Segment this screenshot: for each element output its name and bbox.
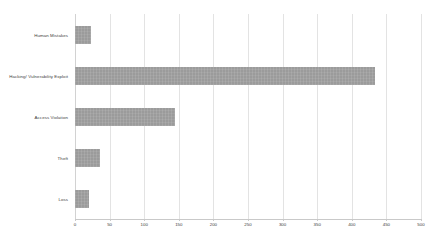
bar-row bbox=[75, 190, 421, 208]
tick-mark-x-0 bbox=[75, 219, 76, 221]
bar-row bbox=[75, 26, 421, 44]
bar bbox=[75, 67, 375, 85]
x-tick-label-150: 150 bbox=[175, 222, 182, 227]
x-tick-label-400: 400 bbox=[348, 222, 355, 227]
tick-mark-x-450 bbox=[386, 219, 387, 221]
x-tick-label-450: 450 bbox=[383, 222, 390, 227]
bar-row bbox=[75, 108, 421, 126]
x-tick-label-0: 0 bbox=[74, 222, 76, 227]
bar-row bbox=[75, 67, 421, 85]
tick-mark-x-100 bbox=[144, 219, 145, 221]
x-tick-label-50: 50 bbox=[107, 222, 112, 227]
bar-row bbox=[75, 149, 421, 167]
tick-mark-x-150 bbox=[179, 219, 180, 221]
tick-mark-x-200 bbox=[213, 219, 214, 221]
y-axis-label: Theft bbox=[58, 155, 68, 160]
bar bbox=[75, 26, 91, 44]
x-tick-label-350: 350 bbox=[314, 222, 321, 227]
x-tick-label-250: 250 bbox=[244, 222, 251, 227]
tick-mark-x-400 bbox=[352, 219, 353, 221]
tick-mark-x-300 bbox=[283, 219, 284, 221]
x-tick-label-300: 300 bbox=[279, 222, 286, 227]
x-tick-label-200: 200 bbox=[210, 222, 217, 227]
bar bbox=[75, 190, 89, 208]
tick-mark-x-250 bbox=[248, 219, 249, 221]
bar bbox=[75, 149, 100, 167]
y-axis-label: Hacking/ Vulnerability Exploit bbox=[9, 73, 68, 78]
y-axis-label: Access Violation bbox=[35, 114, 68, 119]
plot-area bbox=[75, 14, 421, 219]
gridline-x-500 bbox=[421, 14, 422, 219]
tick-mark-x-500 bbox=[421, 219, 422, 221]
tick-mark-x-350 bbox=[317, 219, 318, 221]
bar bbox=[75, 108, 175, 126]
x-tick-label-500: 500 bbox=[417, 222, 424, 227]
y-axis-label: Human Mistakes bbox=[34, 32, 68, 37]
tick-mark-x-50 bbox=[110, 219, 111, 221]
x-tick-label-100: 100 bbox=[141, 222, 148, 227]
y-axis-label: Loss bbox=[58, 196, 68, 201]
bar-chart: 050100150200250300350400450500Human Mist… bbox=[0, 0, 434, 242]
